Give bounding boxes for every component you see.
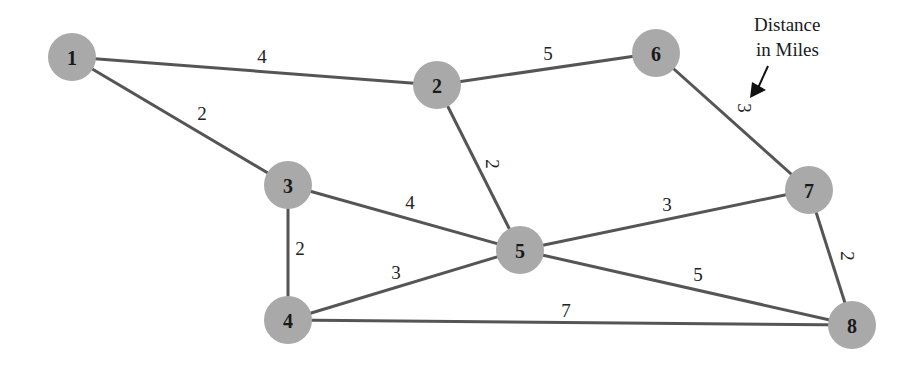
node-6: 6 bbox=[632, 29, 680, 77]
node-label: 8 bbox=[847, 315, 857, 337]
edge-1-3 bbox=[72, 57, 288, 185]
node-label: 7 bbox=[804, 180, 814, 202]
annotation-line-1: Distance bbox=[754, 14, 820, 35]
node-7: 7 bbox=[785, 166, 833, 214]
edge-weight-2-6: 5 bbox=[543, 43, 553, 64]
annotation-line-2: in Miles bbox=[756, 39, 819, 60]
node-8: 8 bbox=[828, 301, 876, 349]
node-5: 5 bbox=[496, 226, 544, 274]
distance-annotation: Distance in Miles bbox=[750, 14, 820, 98]
edge-3-5 bbox=[288, 185, 520, 250]
node-label: 5 bbox=[515, 240, 525, 262]
edge-6-7 bbox=[656, 53, 809, 190]
node-4: 4 bbox=[264, 296, 312, 344]
edge-weight-3-4: 2 bbox=[295, 238, 305, 259]
edge-weight-7-8: 2 bbox=[837, 251, 858, 261]
edge-weight-4-5: 3 bbox=[391, 262, 401, 283]
edge-1-2 bbox=[72, 57, 437, 85]
node-label: 2 bbox=[432, 75, 442, 97]
node-1: 1 bbox=[48, 33, 96, 81]
edge-weight-5-8: 5 bbox=[693, 264, 703, 285]
edge-weight-3-5: 4 bbox=[405, 192, 415, 213]
edge-weight-1-3: 2 bbox=[197, 103, 207, 124]
edge-weight-1-2: 4 bbox=[257, 46, 267, 67]
edge-2-5 bbox=[437, 85, 520, 250]
node-label: 4 bbox=[283, 310, 293, 332]
network-diagram: 425234233527 12345678 Distance in Miles bbox=[0, 0, 908, 367]
node-label: 6 bbox=[651, 43, 661, 65]
edge-weight-5-7: 3 bbox=[662, 194, 672, 215]
edge-weight-6-7: 3 bbox=[734, 103, 755, 113]
node-label: 3 bbox=[283, 175, 293, 197]
edge-4-5 bbox=[288, 250, 520, 320]
arrow-down-left-icon bbox=[750, 66, 768, 98]
node-3: 3 bbox=[264, 161, 312, 209]
node-2: 2 bbox=[413, 61, 461, 109]
node-label: 1 bbox=[67, 47, 77, 69]
edge-4-8 bbox=[288, 320, 852, 325]
edges-layer bbox=[72, 53, 852, 325]
edge-weight-2-5: 2 bbox=[482, 159, 503, 169]
edge-weight-4-8: 7 bbox=[561, 300, 571, 321]
